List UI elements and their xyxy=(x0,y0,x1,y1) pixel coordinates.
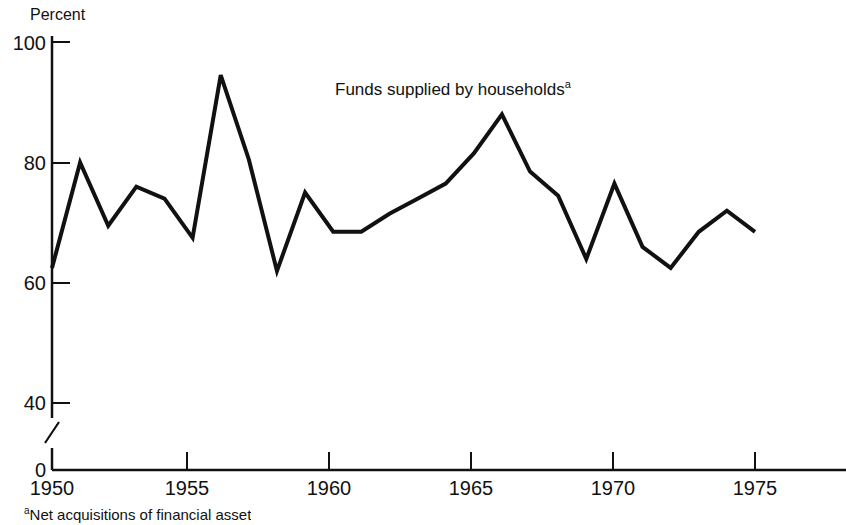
x-axis-tick-label: 1965 xyxy=(431,478,511,498)
y-axis-tick-label: 80 xyxy=(0,153,46,173)
x-axis-tick-label: 1970 xyxy=(573,478,653,498)
footnote: aNet acquisitions of financial asset xyxy=(24,506,251,525)
x-axis-ticks xyxy=(187,452,755,470)
series-annotation: Funds supplied by householdsa xyxy=(335,80,571,100)
chart-plot-area xyxy=(0,0,846,525)
axis-break-mark xyxy=(45,422,59,443)
y-axis-tick-label: 40 xyxy=(0,393,46,413)
footnote-text: Net acquisitions of financial asset xyxy=(30,506,252,523)
y-axis-title: Percent xyxy=(30,6,85,24)
series-annotation-text: Funds supplied by households xyxy=(335,80,565,99)
x-axis-tick-label: 1975 xyxy=(715,478,795,498)
y-axis-tick-label: 100 xyxy=(0,33,46,53)
series-annotation-superscript: a xyxy=(565,78,571,90)
x-axis-tick-label: 1960 xyxy=(289,478,369,498)
x-axis-tick-label: 1950 xyxy=(12,478,92,498)
chart-figure: Percent 100 80 60 40 0 1950 1955 1960 19… xyxy=(0,0,846,525)
y-axis-ticks xyxy=(52,42,70,403)
y-axis-tick-label: 60 xyxy=(0,273,46,293)
data-series-line xyxy=(52,75,755,271)
axes-group xyxy=(45,36,846,470)
x-axis-tick-label: 1955 xyxy=(147,478,227,498)
